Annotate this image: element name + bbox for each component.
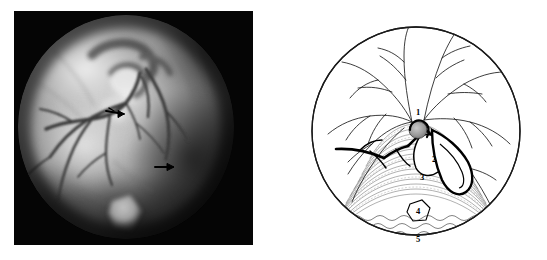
schematic-diagram-image: 1 2 3 4 5 [300,6,542,256]
diagram-label-2: 2 [432,154,436,164]
diagram-label-5: 5 [416,234,420,244]
fundus-photograph-panel [14,11,253,245]
diagram-label-3: 3 [420,172,424,182]
figure-container: 1 2 3 4 5 [0,0,547,260]
diagram-label-1: 1 [416,107,420,117]
schematic-diagram-panel: 1 2 3 4 5 [300,6,542,256]
fundus-photograph-image [14,11,253,245]
